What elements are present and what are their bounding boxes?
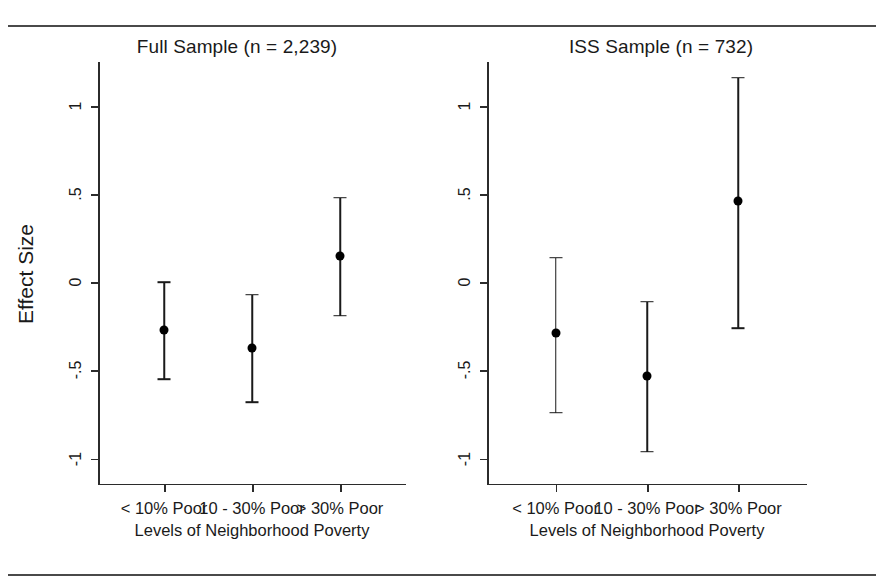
y-tick-label: 0 [456,270,474,294]
confidence-interval-cap [641,301,654,303]
x-tick-mark [647,485,649,492]
confidence-interval-cap [334,197,347,199]
y-tick-label: -1 [67,447,85,471]
y-tick-mark [91,370,98,372]
y-tick-label: 1 [67,94,85,118]
y-tick-label: -.5 [67,358,85,382]
x-axis-title-left: Levels of Neighborhood Poverty [98,521,406,540]
y-tick-mark [480,106,487,108]
data-point-marker [734,197,743,206]
confidence-interval-cap [246,401,259,403]
y-tick-mark [91,459,98,461]
y-axis-title: Effect Size [14,224,38,324]
x-tick-label: > 30% Poor [695,499,782,518]
x-tick-label: < 10% Poor [121,499,208,518]
x-tick-mark [252,485,254,492]
x-tick-mark [340,485,342,492]
y-tick-mark [480,194,487,196]
x-tick-label: 10 - 30% Poor [199,499,304,518]
data-point-marker [643,371,652,380]
x-tick-label: 10 - 30% Poor [594,499,699,518]
data-point-marker [248,343,257,352]
x-tick-label: > 30% Poor [297,499,384,518]
y-tick-mark [91,194,98,196]
plot-area-full-sample: Effect Size Levels of Neighborhood Pover… [98,62,406,485]
data-point-marker [160,325,169,334]
data-point-marker [336,251,345,260]
y-tick-label: 1 [456,94,474,118]
y-tick-mark [480,282,487,284]
y-axis-line-left [98,62,100,485]
y-tick-mark [91,282,98,284]
confidence-interval-cap [732,327,745,329]
confidence-interval-cap [158,378,171,380]
y-tick-mark [91,106,98,108]
y-tick-mark [480,370,487,372]
y-tick-label: .5 [67,182,85,206]
x-tick-mark [164,485,166,492]
y-tick-mark [480,459,487,461]
confidence-interval-cap [246,294,259,296]
confidence-interval-cap [334,315,347,317]
x-tick-mark [738,485,740,492]
confidence-interval-cap [549,412,562,414]
x-axis-title-right: Levels of Neighborhood Poverty [487,521,807,540]
data-point-marker [551,329,560,338]
y-tick-label: .5 [456,182,474,206]
plot-area-iss-sample: Levels of Neighborhood Poverty 1.50-.5-1… [487,62,807,485]
confidence-interval-cap [158,282,171,284]
confidence-interval-cap [549,257,562,259]
panel-full-sample: Full Sample (n = 2,239) Effect Size Leve… [0,0,450,586]
figure-container: Full Sample (n = 2,239) Effect Size Leve… [0,0,884,586]
y-tick-label: 0 [67,270,85,294]
x-tick-label: < 10% Poor [512,499,599,518]
y-tick-label: -.5 [456,358,474,382]
confidence-interval-cap [641,451,654,453]
x-tick-mark [556,485,558,492]
panel-iss-sample: ISS Sample (n = 732) Levels of Neighborh… [450,0,884,586]
confidence-interval-cap [732,77,745,79]
panel-title-full-sample: Full Sample (n = 2,239) [12,36,462,58]
y-tick-label: -1 [456,447,474,471]
y-axis-line-right [487,62,489,485]
panel-title-iss-sample: ISS Sample (n = 732) [444,36,878,58]
